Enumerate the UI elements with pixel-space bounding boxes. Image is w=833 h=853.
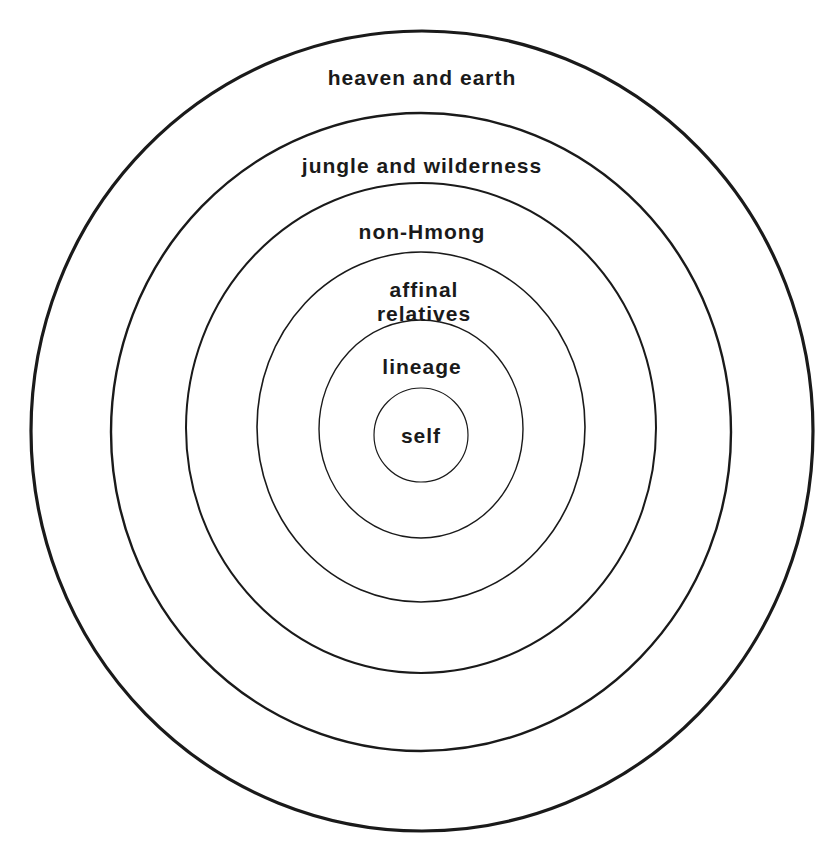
label-self: self — [401, 424, 441, 448]
label-relatives: relatives — [377, 302, 471, 326]
label-non-hmong: non-Hmong — [359, 220, 486, 244]
label-lineage: lineage — [382, 355, 461, 379]
label-heaven-and-earth: heaven and earth — [328, 66, 517, 90]
label-jungle-and-wilderness: jungle and wilderness — [302, 154, 542, 178]
label-affinal: affinal — [390, 278, 459, 302]
